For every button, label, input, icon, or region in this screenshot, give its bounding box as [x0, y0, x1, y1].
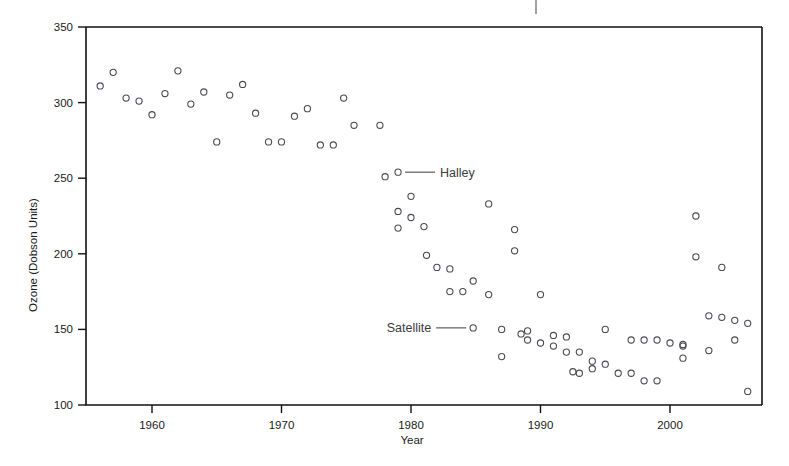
annotation-marker	[395, 169, 401, 175]
data-point	[576, 349, 582, 355]
data-point	[732, 317, 738, 323]
data-point	[470, 278, 476, 284]
x-tick-label: 2000	[657, 419, 683, 431]
data-point	[227, 92, 233, 98]
data-point	[641, 337, 647, 343]
data-point	[537, 292, 543, 298]
data-point	[706, 347, 712, 353]
data-point	[693, 254, 699, 260]
data-point	[317, 142, 323, 148]
data-point	[214, 139, 220, 145]
data-point	[499, 354, 505, 360]
data-point	[745, 388, 751, 394]
data-point	[162, 90, 168, 96]
data-point	[395, 208, 401, 214]
data-point	[278, 139, 284, 145]
y-tick-label: 150	[54, 323, 73, 335]
data-point	[654, 378, 660, 384]
y-axis-title: Ozone (Dobson Units)	[27, 198, 39, 312]
data-point	[719, 264, 725, 270]
data-point	[201, 89, 207, 95]
data-point	[110, 69, 116, 75]
data-point	[518, 331, 524, 337]
data-point	[253, 110, 259, 116]
data-point	[706, 313, 712, 319]
data-point	[123, 95, 129, 101]
data-point	[136, 98, 142, 104]
data-point	[511, 248, 517, 254]
annotation-marker	[470, 325, 476, 331]
data-point	[732, 337, 738, 343]
axis-spine	[86, 27, 762, 405]
y-tick-label: 300	[54, 97, 73, 109]
y-tick-label: 250	[54, 172, 73, 184]
data-point	[395, 225, 401, 231]
data-point	[576, 370, 582, 376]
data-point	[745, 320, 751, 326]
data-point	[341, 95, 347, 101]
data-point	[240, 81, 246, 87]
annotation-label: Satellite	[387, 321, 432, 335]
data-point	[563, 334, 569, 340]
data-point	[460, 289, 466, 295]
data-points	[97, 68, 751, 395]
annotation-halley: Halley	[395, 166, 476, 180]
data-point	[602, 326, 608, 332]
data-point	[421, 223, 427, 229]
y-tick-label: 350	[54, 21, 73, 33]
data-point	[693, 213, 699, 219]
y-tick-label: 100	[54, 399, 73, 411]
data-point	[550, 343, 556, 349]
data-point	[149, 112, 155, 118]
data-point	[524, 337, 530, 343]
data-point	[408, 193, 414, 199]
tick-labels: 10015020025030035019601970198019902000	[54, 21, 683, 431]
data-point	[628, 337, 634, 343]
data-point	[351, 122, 357, 128]
data-point	[563, 349, 569, 355]
ozone-scatter-chart: 10015020025030035019601970198019902000 H…	[0, 0, 789, 466]
axes	[86, 27, 762, 405]
x-tick-label: 1990	[528, 419, 554, 431]
data-point	[511, 227, 517, 233]
x-tick-label: 1980	[398, 419, 424, 431]
y-tick-label: 200	[54, 248, 73, 260]
data-point	[719, 314, 725, 320]
data-point	[265, 139, 271, 145]
series-halley	[97, 68, 725, 337]
data-point	[537, 340, 543, 346]
data-point	[486, 292, 492, 298]
data-point	[175, 68, 181, 74]
data-point	[667, 340, 673, 346]
data-point	[447, 289, 453, 295]
x-axis-title: Year	[400, 434, 423, 446]
data-point	[680, 355, 686, 361]
series-annotations: HalleySatellite	[387, 166, 477, 336]
data-point	[628, 370, 634, 376]
data-point	[499, 326, 505, 332]
data-point	[589, 366, 595, 372]
data-point	[589, 358, 595, 364]
data-point	[570, 369, 576, 375]
data-point	[382, 174, 388, 180]
data-point	[304, 106, 310, 112]
x-tick-label: 1960	[139, 419, 165, 431]
data-point	[330, 142, 336, 148]
data-point	[654, 337, 660, 343]
data-point	[550, 332, 556, 338]
data-point	[434, 264, 440, 270]
data-point	[486, 201, 492, 207]
annotation-satellite: Satellite	[387, 321, 477, 335]
series-satellite	[499, 313, 751, 395]
data-point	[423, 252, 429, 258]
x-tick-label: 1970	[269, 419, 295, 431]
data-point	[641, 378, 647, 384]
data-point	[408, 214, 414, 220]
data-point	[188, 101, 194, 107]
data-point	[291, 113, 297, 119]
data-point	[602, 361, 608, 367]
data-point	[447, 266, 453, 272]
data-point	[615, 370, 621, 376]
data-point	[377, 122, 383, 128]
chart-canvas: 10015020025030035019601970198019902000 H…	[0, 0, 789, 466]
